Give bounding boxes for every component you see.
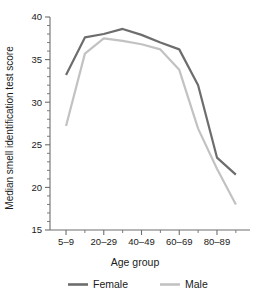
legend-label-male: Male — [185, 278, 208, 290]
series-line-male — [66, 38, 236, 204]
y-tick-label: 25 — [31, 139, 42, 150]
legend-label-female: Female — [93, 278, 128, 290]
x-tick-label: 40–49 — [128, 236, 154, 247]
x-tick-label: 5–9 — [58, 236, 74, 247]
y-axis-ticks — [45, 17, 50, 230]
y-tick-label: 35 — [31, 54, 42, 65]
chart-canvas: Median smell identification test score 1… — [0, 0, 260, 301]
y-tick-label: 15 — [31, 224, 42, 235]
data-series-group — [66, 29, 236, 205]
x-tick-label: 20–29 — [91, 236, 117, 247]
x-axis-tick-labels: 5–920–2940–4960–6980–89 — [58, 236, 230, 247]
y-axis-tick-labels: 152025303540 — [31, 11, 42, 235]
smell-identification-line-chart: Median smell identification test score 1… — [0, 0, 260, 301]
x-tick-label: 60–69 — [166, 236, 192, 247]
chart-legend: FemaleMale — [68, 278, 208, 290]
x-tick-label: 80–89 — [204, 236, 230, 247]
x-axis-title: Age group — [111, 256, 160, 268]
y-tick-label: 40 — [31, 11, 42, 22]
y-tick-label: 20 — [31, 182, 42, 193]
y-tick-label: 30 — [31, 97, 42, 108]
x-axis-ticks — [66, 230, 236, 235]
y-axis-title: Median smell identification test score — [4, 46, 15, 210]
